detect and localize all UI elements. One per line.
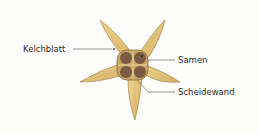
diagram-canvas: Kelchblatt Samen Scheidewand xyxy=(0,0,258,134)
label-scheidewand: Scheidewand xyxy=(178,87,235,97)
star-fruit-illustration xyxy=(0,0,258,134)
capsule xyxy=(117,50,148,80)
label-kelchblatt: Kelchblatt xyxy=(23,44,65,54)
label-samen: Samen xyxy=(178,55,208,65)
